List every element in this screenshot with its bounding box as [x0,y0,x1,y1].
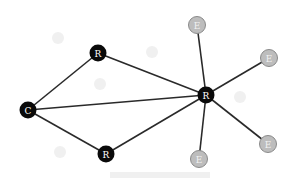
edge-r_top-r_hub [98,53,206,95]
node-e_lower_right: E [260,136,277,153]
node-e_bottom: E [191,151,208,168]
node-label: C [25,106,32,116]
node-label: R [103,150,110,160]
edge-r_hub-e_bottom [199,95,206,159]
edge-c1-r_top [28,53,98,110]
edge-r_hub-e_lower_right [206,95,268,144]
node-label: R [203,91,210,101]
edge-r_hub-e_top [197,25,206,95]
edges-layer [28,25,269,159]
node-e_right: E [261,50,278,67]
node-r_bottom: R [98,146,115,163]
edge-c1-r_bottom [28,110,106,154]
node-label: E [265,140,272,150]
node-label: E [196,155,203,165]
node-e_top: E [189,17,206,34]
edge-r_hub-e_right [206,58,269,95]
edge-c1-r_hub [28,95,206,110]
node-label: E [266,54,273,64]
node-label: R [95,49,102,59]
node-r_top: R [90,45,107,62]
node-r_hub: R [198,87,215,104]
node-c1: C [20,102,37,119]
edge-r_bottom-r_hub [106,95,206,154]
network-diagram: CRRREEEE [0,0,295,183]
node-label: E [194,21,201,31]
